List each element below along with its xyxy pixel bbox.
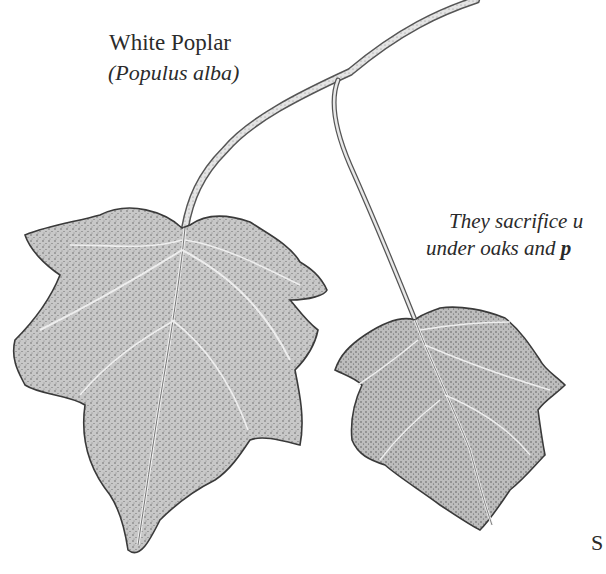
small-leaf: [335, 307, 565, 530]
species-common-name: White Poplar: [109, 30, 231, 56]
body-text-line-2: under oaks and p: [426, 236, 571, 261]
body-text-line-2-bold: p: [561, 236, 572, 260]
body-text-line-1: They sacrifice u: [449, 209, 583, 234]
species-scientific-name: (Populus alba): [108, 60, 239, 86]
corner-text-fragment: S: [591, 530, 603, 556]
body-text-line-2-prefix: under oaks and: [426, 236, 561, 260]
poplar-illustration: [0, 0, 606, 574]
large-leaf: [14, 208, 327, 553]
